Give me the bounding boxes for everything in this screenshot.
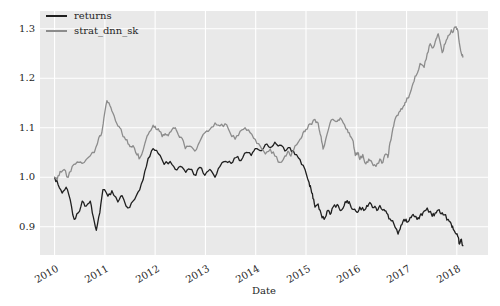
figure: returns strat_dnn_sk 0.91.01.11.21.3 201… [0, 0, 500, 306]
y-tick-label: 1.0 [0, 172, 35, 182]
returns-line-swatch [46, 15, 67, 17]
strat-dnn-sk-line-swatch [46, 30, 67, 32]
legend: returns strat_dnn_sk [46, 10, 138, 36]
y-tick-label: 1.1 [0, 123, 35, 133]
axes-background [40, 11, 488, 255]
y-tick-label: 1.2 [0, 73, 35, 83]
x-axis-label: Date [40, 285, 488, 296]
legend-item-returns: returns [46, 10, 138, 21]
legend-label-returns: returns [74, 10, 112, 21]
chart-canvas [0, 0, 500, 306]
y-tick-label: 1.3 [0, 24, 35, 34]
legend-item-strat-dnn-sk: strat_dnn_sk [46, 25, 138, 36]
legend-label-strat-dnn-sk: strat_dnn_sk [74, 25, 138, 36]
y-tick-label: 0.9 [0, 222, 35, 232]
